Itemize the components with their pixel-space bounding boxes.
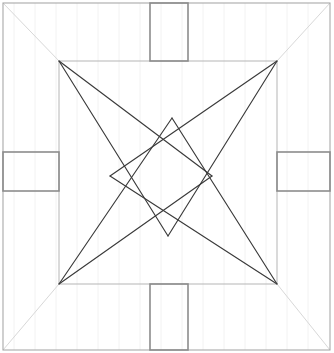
diagram-canvas: [0, 0, 334, 353]
geometric-figure: [0, 0, 334, 353]
